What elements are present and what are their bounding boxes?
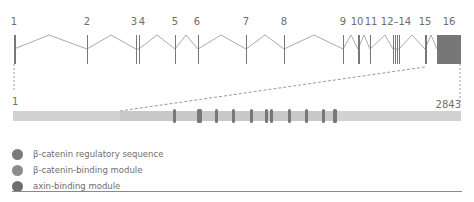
exon-block (14, 35, 16, 64)
exon-block (343, 35, 344, 64)
legend-item: β-catenin regulatory sequence (12, 146, 163, 162)
protein-bar-nterm (13, 111, 120, 121)
exon-block (139, 35, 140, 64)
exon-label: 10 (351, 16, 364, 27)
projection-line-center (120, 67, 425, 111)
exon-label: 2 (84, 16, 90, 27)
legend-dot-icon (12, 181, 23, 192)
exon-block (246, 35, 247, 64)
legend-dot-icon (12, 149, 23, 160)
protein-domain (270, 109, 273, 123)
exon-block (284, 35, 285, 64)
exon-labels: 123456789101112–141516 (11, 16, 456, 27)
protein-domain (215, 109, 218, 123)
exon-label: 3 (131, 16, 137, 27)
protein-bar-middle (120, 111, 335, 121)
protein-domain (322, 109, 325, 123)
exon-block (136, 35, 137, 64)
exon-label: 7 (243, 16, 249, 27)
protein-start-label: 1 (12, 96, 18, 107)
protein-domain (250, 109, 253, 123)
protein-domain (197, 109, 202, 123)
exon-block (397, 35, 398, 64)
bottom-divider (12, 191, 462, 192)
exon-label: 11 (365, 16, 378, 27)
exon-label: 5 (172, 16, 178, 27)
protein-domain (288, 109, 291, 123)
protein-domain (305, 109, 308, 123)
exons (14, 35, 461, 64)
exon-label: 8 (281, 16, 287, 27)
exon-block (358, 35, 360, 64)
legend-label: axin-binding module (33, 181, 120, 191)
protein-domain (173, 109, 176, 123)
protein-bar-cterm (335, 111, 461, 121)
exon-label: 4 (139, 16, 145, 27)
legend-dot-icon (12, 165, 23, 176)
exon-block (198, 35, 199, 64)
exon-label: 16 (443, 16, 456, 27)
legend-label: β-catenin-binding module (33, 165, 142, 175)
exon-block (370, 35, 371, 64)
legend: β-catenin regulatory sequence β-catenin-… (12, 146, 163, 194)
exon-block (393, 35, 394, 64)
exon-block (399, 35, 400, 64)
legend-item: β-catenin-binding module (12, 162, 163, 178)
legend-label: β-catenin regulatory sequence (33, 149, 163, 159)
intron-lines (14, 35, 437, 49)
protein-domain (333, 109, 337, 123)
exon-block (395, 35, 396, 64)
exon-block (87, 35, 88, 64)
protein-domain (232, 109, 235, 123)
exon-label: 1 (11, 16, 17, 27)
exon-block (425, 35, 427, 64)
protein-domain (265, 109, 268, 123)
exon-block (175, 35, 176, 64)
exon-label: 15 (419, 16, 432, 27)
exon-label: 6 (194, 16, 200, 27)
exon-label: 12–14 (381, 16, 411, 27)
protein-end-label: 2843 (436, 99, 461, 110)
exon-label: 9 (340, 16, 346, 27)
exon-block (437, 35, 461, 64)
